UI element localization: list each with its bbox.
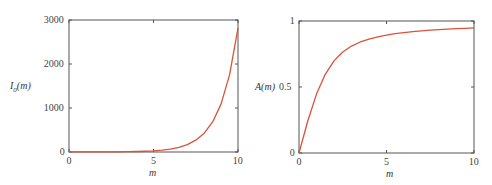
plot-area-left — [0, 0, 246, 185]
x-axis-label-left: m — [149, 167, 156, 178]
y-tick-label: 0 — [60, 146, 65, 157]
x-tick-label: 5 — [384, 156, 389, 167]
axes-box-A — [299, 21, 474, 153]
y-axis-label-suffix: (m) — [17, 80, 31, 91]
x-tick-label: 10 — [469, 156, 479, 167]
y-axis-label-right: A(m) — [255, 81, 275, 92]
x-tick-label: 5 — [151, 155, 156, 166]
y-tick-label: 2000 — [44, 58, 64, 69]
y-tick-label: 1000 — [44, 102, 64, 113]
x-tick-label: 0 — [296, 156, 301, 167]
figure-left-I0: I0(m) m 05100100020003000 — [0, 0, 246, 185]
x-axis-label-right: m — [386, 168, 393, 179]
y-axis-label-left: I0(m) — [10, 80, 31, 94]
x-tick-label: 0 — [66, 155, 71, 166]
series-line-I0 — [69, 28, 238, 152]
axes-box-I0 — [69, 20, 238, 152]
plot-area-right — [246, 0, 492, 185]
y-tick-label: 3000 — [44, 14, 64, 25]
y-tick-label: 0 — [290, 147, 295, 158]
figure-right-A: A(m) m 051000.51 — [246, 0, 492, 185]
series-line-A — [299, 28, 474, 153]
y-tick-label: 1 — [290, 15, 295, 26]
x-tick-label: 10 — [233, 155, 243, 166]
y-tick-label: 0.5 — [279, 81, 292, 92]
